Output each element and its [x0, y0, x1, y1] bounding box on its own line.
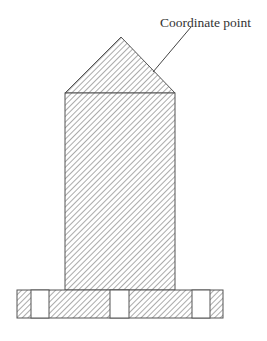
leader-line: [153, 27, 191, 72]
structure-diagram: Coordinate point: [0, 0, 267, 341]
base-opening-right: [192, 290, 210, 318]
base-opening-left: [31, 290, 49, 318]
column-body: [65, 93, 175, 290]
coordinate-point-label: Coordinate point: [160, 15, 251, 30]
base-opening-center: [110, 290, 129, 318]
